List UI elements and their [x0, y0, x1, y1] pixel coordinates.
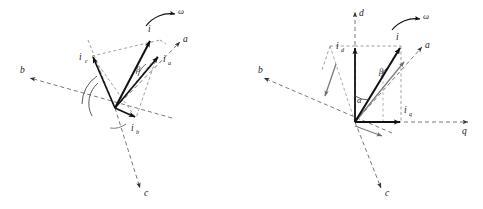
- vector-iq-label: i: [404, 105, 407, 115]
- vector-ia-subscript: a: [168, 60, 171, 66]
- vector-ia-label: i: [163, 54, 166, 64]
- vector-ib-subscript: b: [136, 129, 139, 135]
- vector-id-label: i: [336, 41, 339, 51]
- canvas-background: [0, 0, 483, 209]
- vector-iq-subscript: q: [409, 111, 412, 117]
- axis-b-label: b: [258, 65, 263, 75]
- vector-i-resultant-label: i: [396, 32, 399, 42]
- angle-alpha-label: α: [357, 95, 362, 105]
- axis-a-label: a: [183, 34, 188, 44]
- phasor-diagram-canvas: b a c β i c i b i a i: [0, 0, 483, 209]
- phasor-diagram-figure: b a c β i c i b i a i: [0, 0, 483, 209]
- axis-a-label: a: [425, 40, 430, 50]
- omega-label: ω: [178, 6, 184, 16]
- omega-label: ω: [423, 11, 429, 21]
- vector-ic-label: i: [79, 52, 82, 62]
- axis-q-label: q: [462, 126, 467, 136]
- vector-ib-label: i: [131, 123, 134, 133]
- vector-ic-subscript: c: [85, 58, 88, 64]
- axis-b-label: b: [20, 65, 25, 75]
- axis-d-label: d: [359, 8, 364, 18]
- angle-beta-label: β: [378, 66, 384, 76]
- vector-i-resultant-label: i: [148, 24, 151, 34]
